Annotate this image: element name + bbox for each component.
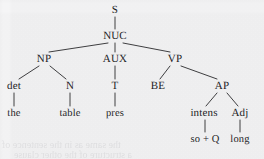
tree-edge-np-to-n	[50, 66, 66, 79]
tree-node-the: the	[7, 108, 20, 119]
tree-node-s: S	[112, 5, 118, 16]
tree-node-aux: AUX	[103, 54, 127, 65]
tree-node-n: N	[66, 81, 74, 92]
tree-node-table: table	[59, 108, 80, 119]
tree-node-t: T	[112, 81, 119, 92]
tree-node-be: BE	[151, 81, 165, 92]
tree-edge-np-to-det	[19, 66, 39, 79]
tree-edge-vp-to-be	[160, 66, 170, 79]
tree-node-long: long	[230, 134, 249, 145]
tree-node-nuc: NUC	[103, 31, 127, 42]
tree-node-soq: so + Q	[191, 134, 220, 145]
tree-node-np: NP	[37, 54, 51, 65]
tree-edge-ap-to-intens	[206, 93, 217, 106]
tree-node-intens: intens	[190, 108, 217, 119]
tree-edge-ap-to-adj	[227, 93, 238, 106]
tree-node-det: det	[7, 81, 21, 92]
tree-edge-nuc-to-vp	[123, 43, 170, 52]
tree-node-pres: pres	[106, 108, 124, 119]
tree-node-ap: AP	[215, 81, 229, 92]
tree-node-adj: Adj	[232, 108, 249, 119]
tree-edge-nuc-to-np	[49, 43, 108, 52]
tree-edge-vp-to-ap	[181, 66, 217, 79]
syntax-tree-figure: SNUCNPAUXVPdetNTBEAPthetablepresintensAd…	[0, 0, 264, 159]
tree-node-vp: VP	[168, 54, 182, 65]
